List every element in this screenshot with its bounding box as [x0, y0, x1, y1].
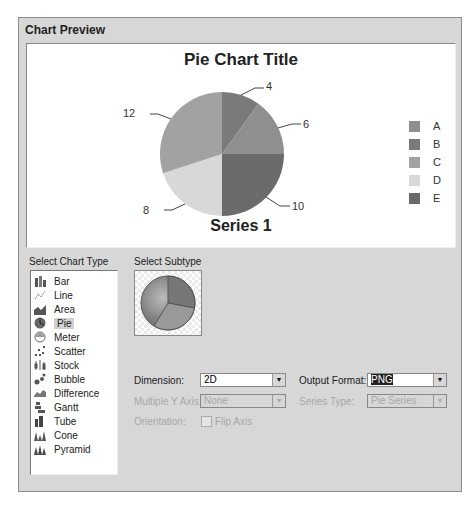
subtype-2d-pie[interactable]: [134, 270, 202, 336]
legend-item-d: D: [409, 172, 441, 188]
gantt-chart-icon: [34, 401, 46, 413]
data-label-10: 10: [292, 200, 304, 212]
chevron-down-icon[interactable]: ▼: [272, 395, 285, 407]
area-chart-icon: [34, 303, 46, 315]
data-label-6: 6: [303, 118, 309, 130]
chevron-down-icon[interactable]: ▼: [433, 374, 446, 386]
dimension-label: Dimension:: [134, 375, 184, 386]
cone-chart-icon: [34, 429, 46, 441]
scatter-chart-icon: [34, 345, 46, 357]
stock-chart-icon: [34, 359, 46, 371]
bubble-chart-icon: [34, 373, 46, 385]
legend-item-a: A: [409, 118, 441, 134]
pie-chart-icon: [34, 317, 46, 329]
difference-chart-icon: [34, 387, 46, 399]
chart-type-list[interactable]: Bar Line Area Pie Meter Scatter Stock Bu…: [30, 270, 118, 475]
line-chart-icon: [34, 289, 46, 301]
legend-swatch: [409, 175, 420, 186]
chart-type-bar[interactable]: Bar: [31, 274, 117, 288]
select-subtype-label: Select Subtype: [134, 256, 201, 267]
chart-type-stock[interactable]: Stock: [31, 358, 117, 372]
chart-preview-panel: Chart Preview Pie Chart Title: [18, 17, 462, 492]
output-format-label: Output Format:: [299, 375, 366, 386]
legend-item-e: E: [409, 190, 441, 206]
series-type-value: Pie Series: [371, 395, 417, 406]
legend-label: D: [433, 174, 441, 186]
chart-type-gantt[interactable]: Gantt: [31, 400, 117, 414]
bar-chart-icon: [34, 275, 46, 287]
chart-type-meter[interactable]: Meter: [31, 330, 117, 344]
flip-axis-checkbox[interactable]: [201, 416, 212, 427]
select-chart-type-label: Select Chart Type: [29, 256, 108, 267]
chart-type-bubble[interactable]: Bubble: [31, 372, 117, 386]
pyramid-chart-icon: [34, 443, 46, 455]
legend-label: C: [433, 156, 441, 168]
chart-type-difference[interactable]: Difference: [31, 386, 117, 400]
legend-label: B: [433, 138, 440, 150]
data-label-12: 12: [123, 107, 135, 119]
flip-axis-label: Flip Axis: [215, 416, 252, 427]
legend-label: E: [433, 192, 440, 204]
legend-swatch: [409, 139, 420, 150]
data-label-4: 4: [266, 80, 272, 92]
chart-type-area[interactable]: Area: [31, 302, 117, 316]
multiple-y-axis-value: None: [204, 395, 228, 406]
tube-chart-icon: [34, 415, 46, 427]
series-label: Series 1: [27, 217, 455, 235]
legend-item-b: B: [409, 136, 441, 152]
output-format-select[interactable]: PNG▼: [367, 373, 447, 387]
pie-subtype-icon: [135, 271, 201, 335]
series-type-select[interactable]: Pie Series▼: [367, 394, 447, 408]
chevron-down-icon[interactable]: ▼: [272, 374, 285, 386]
chart-type-scatter[interactable]: Scatter: [31, 344, 117, 358]
chevron-down-icon[interactable]: ▼: [433, 395, 446, 407]
multiple-y-axis-label: Multiple Y Axis:: [134, 396, 201, 407]
legend-swatch: [409, 121, 420, 132]
chart-type-cone[interactable]: Cone: [31, 428, 117, 442]
panel-title: Chart Preview: [25, 23, 105, 37]
chart-preview-area: Pie Chart Title: [26, 43, 456, 248]
legend-swatch: [409, 193, 420, 204]
orientation-label: Orientation:: [134, 416, 186, 427]
chart-type-pyramid[interactable]: Pyramid: [31, 442, 117, 456]
data-label-8: 8: [143, 204, 149, 216]
meter-chart-icon: [34, 331, 46, 343]
legend-label: A: [433, 120, 440, 132]
series-type-label: Series Type:: [299, 396, 354, 407]
dimension-value: 2D: [204, 374, 217, 385]
legend-item-c: C: [409, 154, 441, 170]
chart-type-line[interactable]: Line: [31, 288, 117, 302]
dimension-select[interactable]: 2D▼: [200, 373, 286, 387]
chart-type-pie[interactable]: Pie: [31, 316, 117, 330]
chart-type-tube[interactable]: Tube: [31, 414, 117, 428]
chart-legend: A B C D E: [409, 118, 441, 208]
output-format-value: PNG: [371, 374, 393, 385]
legend-swatch: [409, 157, 420, 168]
multiple-y-axis-select[interactable]: None▼: [200, 394, 286, 408]
